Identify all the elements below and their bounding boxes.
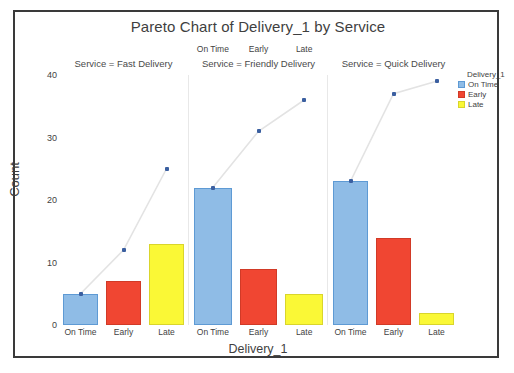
cumulative-point[interactable]	[165, 167, 169, 171]
legend: Delivery_1 On TimeEarlyLate	[458, 70, 514, 110]
cumulative-point[interactable]	[302, 98, 306, 102]
panel-plot-area: On TimeOn TimeEarlyEarlyLateLate	[190, 75, 327, 325]
plot-region: Count 010203040 Delivery_1 Service = Fas…	[15, 12, 501, 360]
cumulative-line	[329, 75, 458, 325]
y-axis-label: Count	[7, 162, 22, 197]
x-axis-tick: Late	[158, 327, 175, 337]
x-axis-label: Delivery_1	[15, 342, 501, 356]
legend-title: Delivery_1	[467, 70, 514, 79]
panel-separator	[327, 75, 328, 325]
cumulative-point[interactable]	[211, 186, 215, 190]
x-axis-tick: Early	[249, 327, 268, 337]
x-axis-tick: Late	[428, 327, 445, 337]
x-axis-tick-top: Late	[296, 44, 313, 54]
panel-title: Service = Fast Delivery	[59, 58, 188, 69]
x-axis-tick-top: On Time	[197, 44, 229, 54]
y-axis-tick: 10	[47, 258, 57, 268]
y-axis-tick: 20	[47, 195, 57, 205]
cumulative-point[interactable]	[349, 179, 353, 183]
legend-label: On Time	[468, 80, 498, 89]
legend-item[interactable]: Early	[458, 90, 514, 99]
legend-item[interactable]: Late	[458, 100, 514, 109]
cumulative-line	[59, 75, 188, 325]
legend-item[interactable]: On Time	[458, 80, 514, 89]
y-axis-tick: 40	[47, 70, 57, 80]
chart-panel: Service = Quick DeliveryOn TimeEarlyLate	[329, 75, 458, 338]
y-axis-tick: 30	[47, 133, 57, 143]
y-axis-tick: 0	[52, 320, 57, 330]
x-axis-tick: On Time	[197, 327, 229, 337]
chart-frame: Pareto Chart of Delivery_1 by Service Co…	[13, 10, 499, 358]
legend-swatch	[458, 81, 465, 88]
cumulative-point[interactable]	[392, 92, 396, 96]
x-axis-tick: On Time	[334, 327, 366, 337]
y-axis-ticks: 010203040	[31, 75, 57, 325]
legend-label: Late	[468, 100, 484, 109]
legend-swatch	[458, 91, 465, 98]
panel-title: Service = Quick Delivery	[329, 58, 458, 69]
cumulative-point[interactable]	[257, 129, 261, 133]
legend-label: Early	[468, 90, 486, 99]
x-axis-tick-top: Early	[249, 44, 268, 54]
x-axis-tick: On Time	[64, 327, 96, 337]
panel-plot-area: On TimeEarlyLate	[329, 75, 458, 325]
cumulative-point[interactable]	[435, 79, 439, 83]
cumulative-point[interactable]	[79, 292, 83, 296]
cumulative-line	[190, 75, 327, 325]
legend-rows: On TimeEarlyLate	[458, 80, 514, 109]
x-axis-tick: Early	[384, 327, 403, 337]
legend-swatch	[458, 101, 465, 108]
cumulative-point[interactable]	[122, 248, 126, 252]
chart-panel: Service = Friendly DeliveryOn TimeOn Tim…	[190, 75, 327, 338]
panel-plot-area: On TimeEarlyLate	[59, 75, 188, 325]
panel-title: Service = Friendly Delivery	[190, 58, 327, 69]
x-axis-tick: Late	[296, 327, 313, 337]
panel-separator	[188, 75, 189, 325]
x-axis-tick: Early	[114, 327, 133, 337]
chart-panel: Service = Fast DeliveryOn TimeEarlyLate	[59, 75, 188, 338]
